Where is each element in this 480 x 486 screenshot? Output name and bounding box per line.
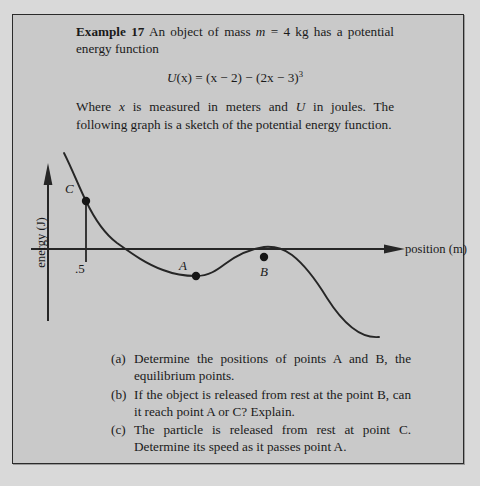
point-c-marker	[82, 197, 90, 205]
example-intro-before: An object of mass	[149, 24, 256, 39]
equation-function-name: U	[167, 70, 177, 85]
variable-m: m	[256, 24, 266, 39]
variable-u: U	[296, 99, 306, 114]
point-b-marker	[260, 253, 268, 261]
point-c-label: C	[65, 181, 74, 197]
question-list: (a) Determine the positions of points A …	[111, 350, 411, 457]
potential-energy-equation: U(x) = (x − 2) − (2x − 3)3	[76, 69, 394, 86]
where-middle: is measured in meters and	[125, 99, 296, 114]
question-item-a: (a) Determine the positions of points A …	[111, 350, 411, 385]
x-axis-tick-label: .5	[75, 261, 85, 277]
example-label: Example 17	[76, 24, 144, 39]
x-axis-title: position (m)	[405, 242, 467, 257]
question-item-b: (b) If the object is released from rest …	[111, 386, 411, 421]
point-a-marker	[192, 272, 200, 280]
question-text-a: Determine the positions of points A and …	[134, 350, 411, 385]
point-a-label: A	[179, 258, 187, 274]
y-axis-arrow-icon	[44, 163, 53, 185]
question-marker-a: (a)	[111, 350, 134, 367]
equation-right-hand-side: = (x − 2) − (2x − 3)	[195, 70, 298, 85]
question-item-c: (c) The particle is released from rest a…	[111, 421, 411, 456]
example-panel: Example 17 An object of mass m = 4 kg ha…	[12, 14, 464, 464]
example-body-text: Example 17 An object of mass m = 4 kg ha…	[76, 23, 394, 133]
example-intro-paragraph: Example 17 An object of mass m = 4 kg ha…	[76, 23, 394, 58]
potential-energy-curve	[64, 153, 379, 337]
equation-argument: (x)	[177, 70, 192, 85]
where-prefix: Where	[76, 99, 119, 114]
y-axis-title: energy (J)	[34, 203, 49, 283]
question-marker-b: (b)	[111, 386, 134, 403]
example-where-paragraph: Where x is measured in meters and U in j…	[76, 98, 394, 133]
question-text-b: If the object is released from rest at t…	[134, 386, 411, 421]
point-b-label: B	[260, 264, 268, 280]
x-axis-arrow-icon	[384, 244, 405, 253]
equation-exponent: 3	[299, 68, 303, 78]
question-text-c: The particle is released from rest at po…	[134, 421, 411, 456]
question-marker-c: (c)	[111, 421, 134, 438]
